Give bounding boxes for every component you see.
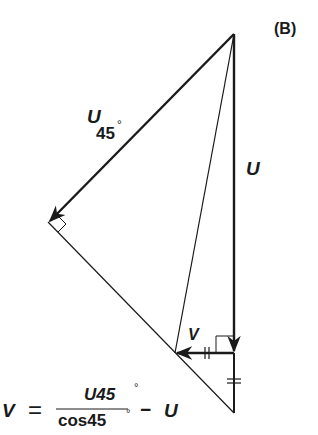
right-angle-mark-left bbox=[56, 214, 66, 232]
hypotenuse-line bbox=[48, 222, 234, 413]
u45-degree: ° bbox=[117, 118, 122, 132]
equation-minus: − bbox=[140, 399, 151, 421]
u-label: U bbox=[246, 158, 260, 180]
equation-numerator: U45 bbox=[84, 385, 115, 405]
equation-equals: = bbox=[28, 396, 42, 424]
right-angle-mark-v bbox=[216, 336, 234, 353]
vector-diagram bbox=[0, 0, 318, 435]
panel-label: (B) bbox=[274, 20, 296, 38]
resultant-line bbox=[175, 34, 234, 353]
u45-vector bbox=[50, 34, 234, 221]
u45-subscript: 45 bbox=[96, 124, 115, 144]
v-label: V bbox=[188, 326, 199, 344]
equation-denominator-degree: ° bbox=[126, 407, 130, 419]
equation-numerator-degree: ° bbox=[134, 381, 138, 393]
equation-lhs: V bbox=[2, 400, 15, 422]
equation-rhs-term: U bbox=[164, 400, 178, 422]
equation-denominator: cos45 bbox=[58, 411, 106, 431]
